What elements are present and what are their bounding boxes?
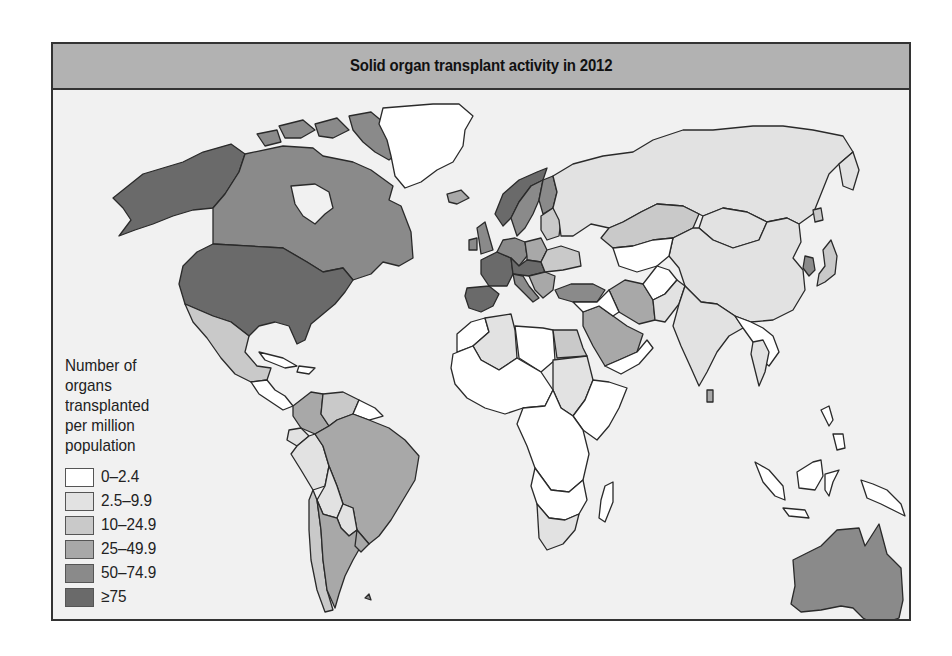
legend-swatch bbox=[65, 468, 94, 487]
legend-title: Number of organs transplanted per millio… bbox=[65, 356, 218, 456]
legend-swatch bbox=[65, 588, 94, 607]
region-iceland bbox=[447, 190, 469, 204]
region-borneo bbox=[797, 460, 823, 490]
legend-swatch bbox=[65, 564, 94, 583]
legend-swatch bbox=[65, 492, 94, 511]
region-java bbox=[783, 508, 809, 518]
legend-item: 10–24.9 bbox=[65, 513, 235, 537]
region-madagascar bbox=[599, 482, 613, 522]
region-turkey bbox=[555, 284, 605, 302]
region-sri-lanka bbox=[707, 390, 713, 402]
region-iberia bbox=[465, 286, 499, 312]
legend-swatch bbox=[65, 540, 94, 559]
region-korea bbox=[803, 256, 815, 276]
legend-item: 0–2.4 bbox=[65, 465, 235, 489]
legend-swatch bbox=[65, 516, 94, 535]
title-bar: Solid organ transplant activity in 2012 bbox=[53, 44, 909, 90]
figure-title: Solid organ transplant activity in 2012 bbox=[350, 56, 613, 76]
legend-items: 0–2.4 2.5–9.9 10–24.9 25–49.9 50–74.9 ≥7… bbox=[65, 465, 235, 609]
region-ireland bbox=[469, 238, 477, 250]
legend-item: ≥75 bbox=[65, 585, 235, 609]
legend-item: 25–49.9 bbox=[65, 537, 235, 561]
region-falklands bbox=[365, 594, 371, 600]
region-ukraine bbox=[541, 246, 581, 272]
region-australia bbox=[791, 524, 903, 619]
region-new-guinea bbox=[861, 480, 905, 516]
legend: Number of organs transplanted per millio… bbox=[65, 356, 235, 609]
region-uk bbox=[477, 222, 493, 254]
region-japan bbox=[813, 208, 837, 286]
legend-item: 50–74.9 bbox=[65, 561, 235, 585]
region-philippines bbox=[821, 406, 845, 450]
map-figure: Solid organ transplant activity in 2012 bbox=[51, 42, 911, 621]
region-central-america bbox=[251, 380, 293, 410]
legend-item: 2.5–9.9 bbox=[65, 489, 235, 513]
region-sumatra bbox=[755, 462, 785, 500]
region-thailand bbox=[751, 340, 769, 386]
region-greenland bbox=[379, 104, 473, 188]
region-sulawesi bbox=[825, 470, 839, 496]
region-egypt bbox=[553, 330, 587, 358]
